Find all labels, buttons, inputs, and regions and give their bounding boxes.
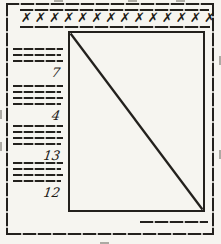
group-number-label: 7 [12,66,64,80]
text-line [13,168,61,170]
diagonal-line [70,33,203,210]
scan-artifact-tick [219,56,221,65]
figure-border-bottom [8,233,214,235]
caption-rule [140,221,208,223]
text-block-group: 12 [13,162,63,200]
x-marks-row: ✗✗✗✗✗✗✗✗✗✗✗✗✗✗ [20,10,207,26]
scan-artifact-tick [176,0,185,2]
text-line [13,143,61,145]
figure-border-top [6,3,214,5]
text-line [13,48,63,50]
group-number-label: 4 [12,109,64,123]
text-line [13,85,63,87]
text-line [13,54,61,56]
text-line [13,60,63,62]
text-line [13,97,63,99]
text-block-group: 13 [13,125,63,163]
image-placeholder-box [68,31,205,212]
text-line [13,103,61,105]
text-line [13,180,61,182]
header-rule-bottom [20,26,210,28]
scan-artifact-tick [219,150,221,159]
text-block-group: 4 [13,85,63,123]
text-line [13,131,61,133]
scan-artifact-tick [0,142,2,151]
text-line [13,137,63,139]
text-line [13,174,63,176]
text-line [13,162,63,164]
text-block-group: 7 [13,48,63,80]
figure-border-left [6,3,8,235]
scan-artifact-tick [128,0,137,2]
figure-border-right [212,3,214,235]
group-number-label: 13 [12,149,64,163]
text-line [13,91,61,93]
text-line [13,125,63,127]
scan-artifact-tick [54,0,63,2]
scan-artifact-tick [0,110,2,119]
scanned-figure: ✗✗✗✗✗✗✗✗✗✗✗✗✗✗ 741312 [0,0,221,244]
group-number-label: 12 [12,186,64,200]
